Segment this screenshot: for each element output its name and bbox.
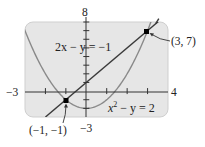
intersection-point-neg1-neg1 — [64, 98, 69, 103]
point-label-3-7: (3, 7) — [171, 35, 196, 48]
parabola-eq-rest: − y = 2 — [117, 101, 155, 115]
y-max-label: 8 — [82, 6, 88, 18]
chart-figure: 8 −3 −3 4 2x − y = −1 x2 − y = 2 (3, 7) … — [0, 0, 205, 147]
point-label-neg1-neg1: (−1, −1) — [29, 124, 67, 137]
x-min-label: −3 — [6, 86, 18, 98]
y-min-label: −3 — [80, 122, 92, 134]
x-max-label: 4 — [171, 86, 177, 98]
intersection-point-3-7 — [144, 29, 149, 34]
line-equation-label: 2x − y = −1 — [55, 40, 111, 54]
